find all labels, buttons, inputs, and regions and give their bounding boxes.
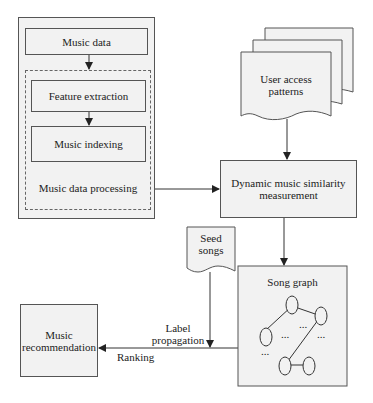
dynamic-similarity-line2: measurement: [259, 189, 318, 201]
song-graph-ellipsis-4: ...: [261, 345, 269, 357]
music-recommendation-line2: recommendation: [22, 341, 96, 353]
ranking-label: Ranking: [117, 351, 154, 363]
user-access-patterns-line2: patterns: [241, 85, 331, 97]
user-access-patterns-label: User access patterns: [241, 73, 331, 97]
seed-songs-label: Seed songs: [187, 232, 235, 256]
label-propagation-line2: propagation: [150, 334, 206, 346]
song-graph-ellipsis-2: ...: [281, 328, 289, 340]
seed-songs-line2: songs: [187, 244, 235, 256]
label-propagation-label: Label propagation: [150, 322, 206, 346]
dynamic-similarity-line1: Dynamic music similarity: [231, 177, 345, 189]
music-recommendation-box: Music recommendation: [20, 304, 98, 377]
dynamic-music-similarity-box: Dynamic music similarity measurement: [220, 160, 357, 218]
song-graph-ellipsis-1: ...: [299, 318, 307, 330]
song-graph-title: Song graph: [238, 276, 347, 288]
user-access-patterns-line1: User access: [241, 73, 331, 85]
music-recommendation-line1: Music: [45, 329, 73, 341]
label-propagation-line1: Label: [150, 322, 206, 334]
seed-songs-line1: Seed: [187, 232, 235, 244]
song-graph-ellipsis-3: ...: [317, 328, 325, 340]
